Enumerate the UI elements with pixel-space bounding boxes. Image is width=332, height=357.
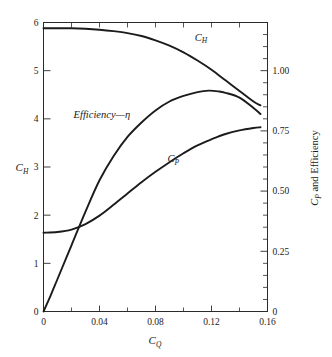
y-tick-right-label: 0.25 bbox=[273, 247, 290, 257]
chart-figure: 00.040.080.120.16 0123456 00.250.500.751… bbox=[0, 0, 332, 357]
y-tick-left-label: 4 bbox=[34, 114, 39, 124]
x-tick-label: 0 bbox=[41, 317, 46, 327]
y-tick-left-label: 3 bbox=[34, 162, 39, 172]
chart-canvas: 00.040.080.120.16 0123456 00.250.500.751… bbox=[0, 0, 332, 357]
curve-label-efficiency: Efficiency—η bbox=[73, 109, 131, 120]
x-tick-label: 0.08 bbox=[147, 317, 164, 327]
y-tick-left-label: 5 bbox=[34, 66, 39, 76]
y-tick-left-label: 0 bbox=[34, 307, 39, 317]
y-tick-right-label: 1.00 bbox=[273, 66, 290, 76]
y-tick-left-label: 2 bbox=[34, 211, 39, 221]
x-tick-label: 0.04 bbox=[91, 317, 108, 327]
x-tick-label: 0.12 bbox=[203, 317, 220, 327]
chart-background bbox=[0, 0, 332, 357]
y-tick-left-label: 6 bbox=[34, 18, 39, 28]
y-tick-right-label: 0 bbox=[273, 307, 278, 317]
y-tick-right-label: 0.75 bbox=[273, 126, 290, 136]
x-tick-label: 0.16 bbox=[259, 317, 276, 327]
y-tick-right-label: 0.50 bbox=[273, 186, 290, 196]
y-tick-left-label: 1 bbox=[34, 259, 39, 269]
